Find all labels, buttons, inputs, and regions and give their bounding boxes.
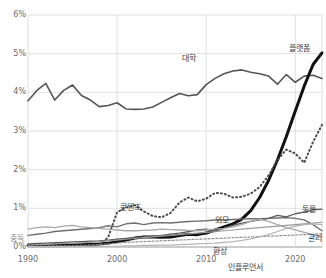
series-label-인플루언서: 인플루언서 (228, 261, 263, 272)
y-axis-tick-label: 5% (0, 49, 26, 58)
y-axis-tick-label: 1% (0, 203, 26, 212)
x-axis-tick-label: 2020 (277, 255, 313, 264)
y-axis-tick-label: 6% (0, 10, 26, 19)
series-line-콘텐츠 (28, 125, 322, 246)
series-label-동물: 동물 (302, 203, 316, 214)
series-label-플랫폼: 플랫폼 (289, 42, 310, 53)
series-label-중독: 중독 (10, 232, 24, 243)
y-axis-tick-label: 3% (0, 126, 26, 135)
series-label-외모: 외모 (215, 214, 229, 225)
line-chart-plot (0, 0, 326, 278)
y-axis-tick-label: 0% (0, 242, 26, 251)
y-axis-tick-label: 2% (0, 165, 26, 174)
x-axis-tick-label: 2010 (188, 255, 224, 264)
chart-container: 0%1%2%3%4%5%6% 1990200020102020 대학플랫폼콘텐츠… (0, 0, 326, 278)
series-label-환상: 환상 (213, 245, 227, 256)
grid-layer (28, 15, 322, 247)
y-axis-tick-label: 4% (0, 87, 26, 96)
series-label-관리: 관리 (308, 232, 322, 243)
series-label-콘텐츠: 콘텐츠 (120, 201, 141, 212)
series-label-대학: 대학 (182, 52, 196, 63)
series-layer (28, 53, 322, 247)
series-line-대학 (28, 70, 322, 109)
x-axis-tick-label: 1990 (10, 255, 46, 264)
series-line-플랫폼 (28, 53, 322, 246)
x-axis-tick-label: 2000 (99, 255, 135, 264)
